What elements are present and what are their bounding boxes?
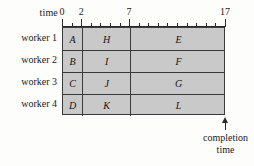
gantt-task-I: I: [82, 51, 130, 72]
row-label-worker-3: worker 3: [2, 76, 57, 88]
gantt-task-L: L: [130, 95, 226, 116]
gantt-row: DKL: [63, 94, 224, 116]
gantt-task-H: H: [82, 28, 130, 50]
x-tick-label-17: 17: [220, 6, 230, 17]
row-label-worker-4: worker 4: [2, 98, 57, 110]
x-tick-label-2: 2: [79, 6, 84, 17]
x-tick-label-7: 7: [127, 6, 132, 17]
gantt-task-B: B: [63, 51, 82, 72]
gantt-grid: AHEBIFCJGDKL: [62, 27, 225, 115]
gantt-row: AHE: [63, 28, 224, 50]
gantt-task-A: A: [63, 28, 82, 50]
gantt-task-D: D: [63, 95, 82, 116]
gantt-task-K: K: [82, 95, 130, 116]
gantt-chart-figure: time 02717 worker 1worker 2worker 3worke…: [0, 0, 254, 166]
gantt-task-E: E: [130, 28, 226, 50]
completion-time-line-1: completion: [178, 132, 254, 144]
x-tick-label-0: 0: [60, 6, 65, 17]
gantt-row: CJG: [63, 72, 224, 94]
completion-time-label: completion time: [178, 132, 254, 156]
up-arrow-icon: [221, 117, 230, 130]
row-label-worker-1: worker 1: [2, 32, 57, 44]
arrow-head: [222, 117, 228, 123]
time-axis-label: time: [22, 7, 58, 18]
gantt-task-J: J: [82, 73, 130, 94]
gantt-task-G: G: [130, 73, 226, 94]
gantt-task-C: C: [63, 73, 82, 94]
completion-time-line-2: time: [178, 144, 254, 156]
row-label-worker-2: worker 2: [2, 54, 57, 66]
gantt-task-F: F: [130, 51, 226, 72]
gantt-row: BIF: [63, 50, 224, 72]
